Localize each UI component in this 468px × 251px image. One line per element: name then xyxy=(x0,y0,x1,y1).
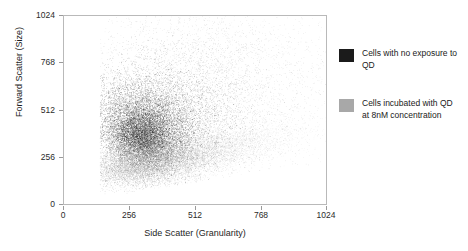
xtick-label-256: 256 xyxy=(111,211,147,220)
ytick-label-256: 256 xyxy=(21,153,55,162)
xtick-label-0: 0 xyxy=(45,211,81,220)
x-axis-title: Side Scatter (Granularity) xyxy=(63,228,327,238)
ytick-mark-1024 xyxy=(59,15,63,16)
flow-cytometry-scatter-figure: 1024 768 512 256 0 0 256 512 768 1024 Fo… xyxy=(0,0,468,251)
ytick-label-0: 0 xyxy=(21,200,55,209)
legend-label-no-exposure: Cells with no exposure to QD xyxy=(362,48,462,71)
ytick-mark-768 xyxy=(59,62,63,63)
scatter-plot-canvas xyxy=(64,16,326,204)
legend-item-incubated: Cells incubated with QD at 8nM concentra… xyxy=(339,98,462,121)
ytick-label-512: 512 xyxy=(21,106,55,115)
ytick-mark-512 xyxy=(59,110,63,111)
xtick-label-1024: 1024 xyxy=(308,211,344,220)
xtick-label-512: 512 xyxy=(177,211,213,220)
plot-area xyxy=(63,15,327,205)
ytick-mark-0 xyxy=(59,204,63,205)
ytick-label-768: 768 xyxy=(21,58,55,67)
xtick-label-768: 768 xyxy=(243,211,279,220)
ytick-mark-256 xyxy=(59,157,63,158)
legend-label-incubated: Cells incubated with QD at 8nM concentra… xyxy=(362,98,462,121)
legend-swatch-gray xyxy=(339,99,354,112)
legend-item-no-exposure: Cells with no exposure to QD xyxy=(339,48,462,71)
ytick-label-1024: 1024 xyxy=(21,11,55,20)
y-axis-title: Forward Scatter (Size) xyxy=(14,7,24,137)
legend-swatch-black xyxy=(339,49,354,62)
